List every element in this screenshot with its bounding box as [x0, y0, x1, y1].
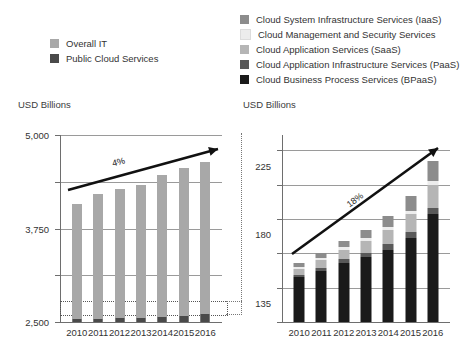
x-axis-tick-label: 2013: [355, 327, 376, 338]
bar-segment: [383, 250, 394, 323]
stacked-bar: [294, 263, 305, 322]
right-chart-axis-caption: USD Billions: [243, 99, 296, 110]
callout-link-bottom: [226, 314, 242, 315]
left-chart-axis-caption: USD Billions: [18, 99, 71, 110]
stacked-bar: [338, 241, 349, 322]
bar-public-cloud: [137, 318, 146, 322]
x-axis-tick-label: 2015: [400, 327, 421, 338]
x-axis: [277, 322, 450, 323]
y-axis-tick-label: 5,000: [25, 130, 49, 141]
management-security-swatch: [240, 29, 251, 40]
legend-cloud-services: Cloud System Infrastructure Services (Ia…: [240, 12, 459, 87]
y-axis-tick-label: 3,750: [25, 223, 49, 234]
bar-public-cloud: [158, 317, 167, 322]
gridline: [60, 182, 222, 183]
stacked-bar: [316, 253, 327, 322]
bar-segment: [383, 230, 394, 245]
public-cloud-swatch: [50, 54, 59, 63]
bar-public-cloud: [94, 319, 103, 322]
x-axis-tick-label: 2011: [88, 327, 108, 338]
legend-item[interactable]: Cloud Management and Security Services: [240, 27, 459, 41]
saas-swatch: [240, 45, 249, 54]
gridline: [282, 185, 450, 186]
stacked-bar: [383, 216, 394, 322]
stacked-bar: [361, 230, 372, 322]
bar-public-cloud: [179, 316, 188, 322]
bar-segment: [361, 257, 372, 322]
legend-item[interactable]: Public Cloud Services: [50, 51, 158, 65]
callout-link-top: [226, 301, 242, 302]
bar-segment: [294, 277, 305, 322]
bar-segment: [427, 208, 438, 215]
legend-item[interactable]: Cloud Application Infrastructure Service…: [240, 57, 459, 71]
bar-overall-it: [115, 189, 125, 322]
bar-overall-it: [72, 204, 82, 322]
bar-segment: [383, 216, 394, 227]
x-axis-tick-label: 2010: [66, 327, 87, 338]
y-axis-tick-label: 180: [255, 229, 271, 240]
x-axis-tick-label: 2010: [289, 327, 310, 338]
public-cloud-plot-area: 0459013518022520102011201220132014201520…: [282, 135, 450, 322]
gridline: [282, 219, 450, 220]
bar-segment: [405, 196, 416, 211]
chart-figure: Overall ITPublic Cloud Services Cloud Sy…: [0, 0, 464, 354]
public-cloud-chart-panel: 0459013518022520102011201220132014201520…: [240, 128, 454, 338]
bar-overall-it: [157, 175, 167, 322]
x-axis-tick-label: 2012: [333, 327, 354, 338]
stacked-bar: [427, 161, 438, 322]
bar-public-cloud: [72, 319, 81, 322]
y-axis-tick-label: 135: [255, 297, 271, 308]
y-axis: [282, 135, 283, 322]
legend-overall-it: Overall ITPublic Cloud Services: [50, 36, 158, 66]
bar-segment: [361, 230, 372, 238]
bpaas-swatch: [240, 75, 249, 84]
bar-segment: [427, 161, 438, 181]
x-axis-tick-label: 2016: [195, 327, 216, 338]
x-axis-tick-label: 2011: [311, 327, 331, 338]
x-axis-tick-label: 2013: [130, 327, 151, 338]
gridline: [282, 150, 450, 151]
bar-segment: [361, 241, 372, 252]
legend-item-label: Cloud Business Process Services (BPaaS): [256, 74, 437, 85]
bar-segment: [316, 271, 327, 322]
x-axis-tick-label: 2012: [109, 327, 130, 338]
y-axis: [60, 135, 61, 322]
x-axis-tick-label: 2015: [173, 327, 194, 338]
y-axis-tick-label: 2,500: [25, 317, 49, 328]
legend-item-label: Cloud Application Infrastructure Service…: [256, 59, 459, 70]
legend-item-label: Cloud System Infrastructure Services (Ia…: [256, 14, 441, 25]
bar-overall-it: [93, 194, 103, 322]
legend-item[interactable]: Cloud System Infrastructure Services (Ia…: [240, 12, 459, 26]
iaas-swatch: [240, 15, 249, 24]
x-axis-tick-label: 2016: [422, 327, 443, 338]
legend-item-label: Overall IT: [66, 38, 107, 49]
x-axis: [55, 322, 222, 323]
overall-it-swatch: [50, 39, 59, 48]
gridline: [60, 135, 222, 136]
bar-overall-it: [136, 185, 146, 322]
paas-swatch: [240, 60, 249, 69]
bar-overall-it: [179, 168, 189, 322]
callout-expand-line: [241, 133, 242, 315]
x-axis-tick-label: 2014: [152, 327, 173, 338]
bar-segment: [316, 260, 327, 268]
bar-public-cloud: [115, 318, 124, 322]
bar-segment: [405, 238, 416, 322]
legend-item-label: Cloud Application Services (SaaS): [256, 44, 401, 55]
bar-segment: [338, 263, 349, 322]
bar-overall-it: [200, 162, 210, 322]
legend-item-label: Cloud Management and Security Services: [258, 29, 435, 40]
legend-item[interactable]: Overall IT: [50, 36, 158, 50]
bar-public-cloud: [201, 314, 210, 322]
x-axis-tick-label: 2014: [378, 327, 399, 338]
bar-segment: [338, 250, 349, 260]
growth-rate-label: 4%: [111, 156, 126, 169]
growth-rate-label: 18%: [345, 191, 365, 210]
bar-segment: [427, 214, 438, 322]
legend-item[interactable]: Cloud Business Process Services (BPaaS): [240, 72, 459, 86]
bar-segment: [427, 185, 438, 207]
y-axis-tick-label: 225: [255, 160, 271, 171]
legend-item[interactable]: Cloud Application Services (SaaS): [240, 42, 459, 56]
overall-it-plot-area: 01,2502,5003,7505,0002010201120122013201…: [60, 135, 222, 322]
stacked-bar: [405, 196, 416, 322]
